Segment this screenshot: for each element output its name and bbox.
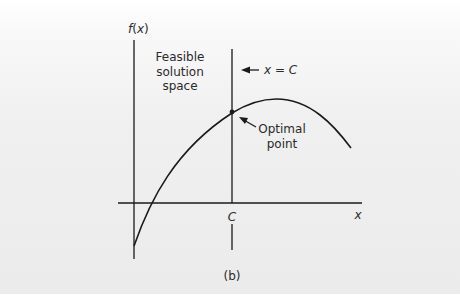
feasible-label-line2: solution: [156, 65, 204, 79]
arrow-left-icon: [241, 67, 259, 74]
arrow-up-left-icon: [239, 117, 256, 127]
constraint-label: x = C: [263, 63, 298, 77]
feasible-label-line1: Feasible: [156, 50, 205, 64]
y-axis-label: f(x): [128, 22, 149, 36]
c-tick-label: C: [228, 210, 237, 224]
optimal-label-line1: Optimal: [258, 122, 305, 136]
optimal-label-line2: point: [267, 137, 298, 151]
optimal-point-marker: [230, 110, 235, 115]
x-axis-label: x: [353, 208, 362, 222]
feasible-label-line3: space: [162, 79, 197, 93]
optimization-diagram: f(x) Feasible solution space x = C Optim…: [0, 0, 460, 308]
figure-caption: (b): [224, 269, 241, 283]
